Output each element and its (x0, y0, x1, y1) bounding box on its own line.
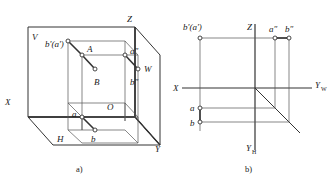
segment-a2-to-b2 (125, 55, 138, 69)
point-marker-top-a (198, 106, 202, 110)
projection-construction (200, 38, 289, 131)
point-marker-b-double-prime (136, 67, 140, 71)
point-marker-side-a (273, 36, 277, 40)
label-b-double-prime: b″ (130, 77, 139, 87)
label-v-plane: V (32, 32, 39, 42)
label-axis-x: X (4, 97, 11, 107)
segment-A-to-B (82, 55, 95, 69)
label-axis-z: Z (127, 14, 133, 24)
point-marker-a-double-prime (123, 53, 127, 57)
label-point-b: b (91, 134, 96, 144)
label-front-view-point: b'(a') (183, 22, 202, 32)
label-projection-axis-x: X (172, 83, 179, 93)
caption-a: a) (76, 164, 83, 174)
label-point-B: B (94, 77, 100, 87)
label-projection-axis-z: Z (247, 22, 253, 32)
label-origin-O: O (107, 102, 114, 112)
axis-y-line (135, 117, 160, 145)
label-axis-yw-subscript: W (321, 86, 327, 92)
segment-a-prime-to-A (68, 41, 82, 55)
label-side-a: a″ (269, 24, 278, 34)
point-marker-b-prime-a-prime (66, 39, 70, 43)
point-marker-top-b (198, 120, 202, 124)
projection-segments (200, 38, 289, 122)
label-axis-yh-subscript: H (252, 149, 257, 155)
label-top-b: b (190, 118, 195, 128)
cline-h-diag-right (125, 130, 138, 143)
w-plane-outline (135, 27, 160, 145)
point-marker-A (80, 53, 84, 57)
label-axis-yw-group: Y W (315, 80, 327, 92)
label-a-double-prime: a″ (130, 46, 139, 56)
projection-point-markers (198, 36, 291, 124)
cline-h-diag-left (68, 130, 82, 143)
label-top-a: a (190, 103, 195, 113)
point-marker-side-b (287, 36, 291, 40)
label-w-plane: W (144, 64, 153, 74)
projection-diagram: b'(a') Z a″ b″ X Y W a b Y H b) (172, 22, 327, 174)
point-markers (66, 39, 140, 132)
point-marker-front-view (198, 36, 202, 40)
label-point-A: A (86, 44, 93, 54)
point-marker-a (80, 115, 84, 119)
label-h-plane: H (56, 134, 64, 144)
segment-a-to-b (82, 117, 95, 130)
construction-box (68, 41, 138, 143)
point-marker-B (93, 67, 97, 71)
w-plane (135, 27, 160, 145)
label-side-b: b″ (285, 24, 294, 34)
label-b-prime-a-prime: b'(a') (45, 39, 64, 49)
point-marker-b (93, 128, 97, 132)
pictorial-diagram: V b'(a') Z A a″ W B b″ O X a H b Y a) (4, 14, 161, 174)
label-point-a: a (72, 109, 77, 119)
projection-axes (182, 24, 312, 150)
miter-line-45 (255, 88, 300, 133)
descriptive-geometry-figure: V b'(a') Z A a″ W B b″ O X a H b Y a) (0, 0, 333, 188)
caption-b: b) (245, 164, 252, 174)
cline-diag-botright (125, 103, 138, 117)
figure-svg: V b'(a') Z A a″ W B b″ O X a H b Y a) (0, 0, 333, 188)
